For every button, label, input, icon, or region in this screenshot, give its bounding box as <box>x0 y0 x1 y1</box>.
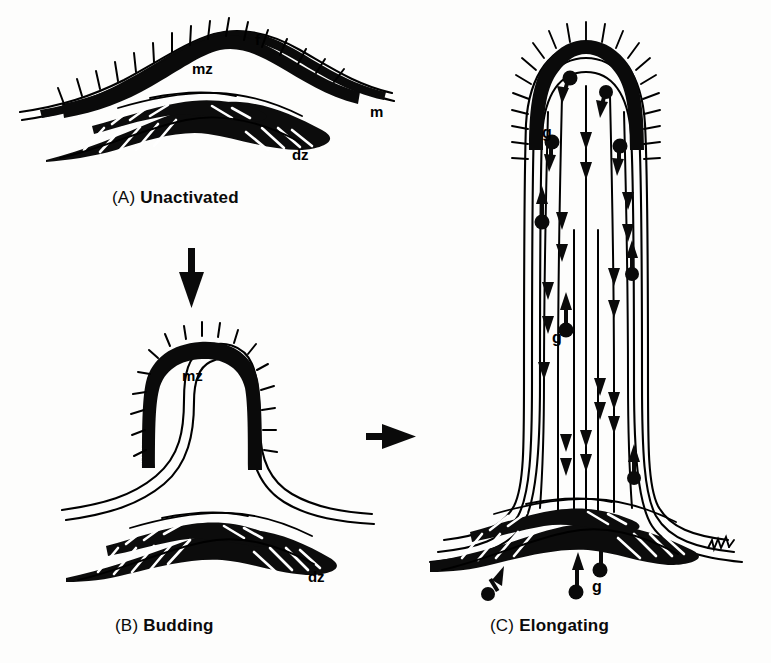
label-g-granule-shaft: g <box>552 329 562 347</box>
label-g-granule-base: g <box>592 578 602 596</box>
panel-b-caption-text: Budding <box>143 616 213 635</box>
panel-a-prefix: (A) <box>112 188 135 207</box>
panel-c-caption: (C)Elongating <box>490 616 609 636</box>
label-f-fibrils: f <box>255 31 260 48</box>
panel-a-caption: (A)Unactivated <box>112 188 239 208</box>
arrow-b-to-c <box>366 424 416 449</box>
arrow-a-to-b <box>179 248 204 308</box>
label-dz-differentiation-zone: dz <box>308 568 324 585</box>
label-m-membrane: m <box>370 103 383 120</box>
panel-b-caption: (B)Budding <box>115 616 214 636</box>
label-mz-meristematic-zone: mz <box>182 367 202 384</box>
transition-arrows <box>0 0 771 663</box>
label-g-granule-apical: g <box>542 124 552 142</box>
label-mz-meristematic-zone: mz <box>192 60 212 77</box>
panel-c-caption-text: Elongating <box>519 616 609 635</box>
label-dz-differentiation-zone: dz <box>292 146 308 163</box>
figure-root: f mz m dz mz dz g g g (A)Unactivated (B)… <box>0 0 771 663</box>
panel-c-prefix: (C) <box>490 616 514 635</box>
panel-b-prefix: (B) <box>115 616 138 635</box>
panel-a-caption-text: Unactivated <box>140 188 239 207</box>
